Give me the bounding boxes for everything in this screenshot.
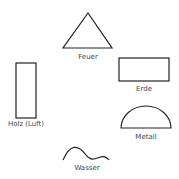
water-wave-icon [63,147,109,160]
label-holz: Holz (Luft) [8,120,44,128]
five-elements-diagram: Feuer Erde Holz (Luft) Metall Wasser [0,0,179,179]
wood-rectangle-icon [16,63,36,118]
fire-triangle-icon [63,13,112,48]
label-feuer: Feuer [78,53,98,61]
label-wasser: Wasser [74,164,99,172]
shapes-canvas [0,0,179,179]
metal-semicircle-icon [121,106,171,128]
earth-rectangle-icon [119,58,169,81]
label-metall: Metall [135,133,156,141]
label-erde: Erde [136,85,152,93]
